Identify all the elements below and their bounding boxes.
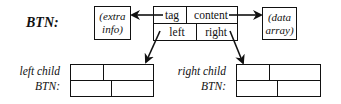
arrows-layer [0,0,341,104]
arrow-left-to-left-child [146,31,160,62]
arrow-right-to-right-child [230,31,243,63]
